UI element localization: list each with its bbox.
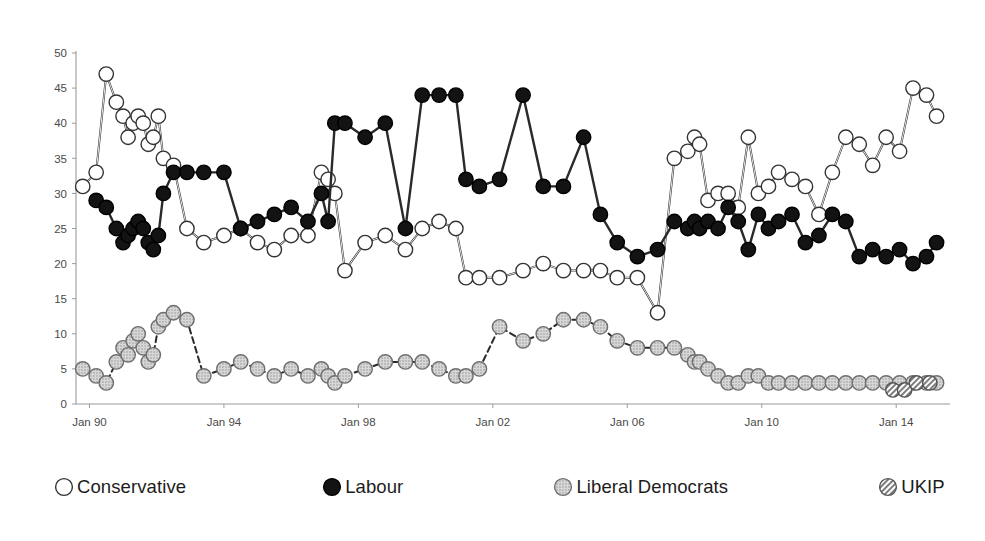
data-point <box>839 214 853 228</box>
data-point <box>301 369 315 383</box>
y-tick-label: 5 <box>61 363 67 375</box>
data-point <box>398 221 412 235</box>
data-point <box>692 137 706 151</box>
data-point <box>321 214 335 228</box>
data-point <box>284 362 298 376</box>
chart-legend: ConservativeLabourLiberal DemocratsUKIP <box>54 466 954 508</box>
data-point <box>865 158 879 172</box>
data-point <box>415 355 429 369</box>
data-point <box>146 130 160 144</box>
data-point <box>121 348 135 362</box>
data-point <box>879 249 893 263</box>
data-point <box>398 355 412 369</box>
data-point <box>825 376 839 390</box>
data-point <box>459 270 473 284</box>
y-tick-label: 20 <box>54 258 67 270</box>
data-point <box>146 348 160 362</box>
data-point <box>197 165 211 179</box>
data-point <box>156 186 170 200</box>
data-point <box>741 242 755 256</box>
data-point <box>449 221 463 235</box>
data-point <box>852 376 866 390</box>
data-point <box>667 214 681 228</box>
data-point <box>197 369 211 383</box>
data-point <box>99 200 113 214</box>
y-tick-label: 40 <box>54 117 67 129</box>
data-point <box>358 235 372 249</box>
data-point <box>472 270 486 284</box>
x-tick-label: Jan 10 <box>744 416 779 428</box>
series-liberal-democrats <box>76 306 944 391</box>
data-point <box>556 313 570 327</box>
hatched-circle-icon <box>878 477 898 497</box>
y-tick-label: 25 <box>54 223 67 235</box>
data-point <box>812 207 826 221</box>
data-point <box>771 165 785 179</box>
data-point <box>151 109 165 123</box>
data-point <box>197 235 211 249</box>
data-point <box>301 214 315 228</box>
data-point <box>217 362 231 376</box>
data-point <box>812 228 826 242</box>
data-point <box>338 263 352 277</box>
y-tick-label: 10 <box>54 328 67 340</box>
data-point <box>472 179 486 193</box>
legend-item-liberal-democrats[interactable]: Liberal Democrats <box>553 476 728 498</box>
data-point <box>284 200 298 214</box>
data-point <box>593 320 607 334</box>
data-point <box>398 242 412 256</box>
data-point <box>99 67 113 81</box>
y-tick-label: 35 <box>54 153 67 165</box>
legend-item-ukip[interactable]: UKIP <box>878 476 945 498</box>
legend-item-conservative[interactable]: Conservative <box>54 476 186 498</box>
data-point <box>852 249 866 263</box>
data-point <box>839 130 853 144</box>
data-point <box>812 376 826 390</box>
data-point <box>321 172 335 186</box>
data-point <box>378 228 392 242</box>
data-point <box>630 270 644 284</box>
data-point <box>536 256 550 270</box>
data-point <box>267 369 281 383</box>
data-point <box>785 376 799 390</box>
x-tick-label: Jan 02 <box>476 416 511 428</box>
data-point <box>929 109 943 123</box>
data-point <box>892 144 906 158</box>
data-point <box>610 334 624 348</box>
legend-label: Conservative <box>77 476 186 498</box>
data-point <box>250 235 264 249</box>
y-tick-label: 50 <box>54 47 67 59</box>
data-point <box>180 221 194 235</box>
data-point <box>166 165 180 179</box>
legend-item-labour[interactable]: Labour <box>322 476 403 498</box>
data-point <box>919 249 933 263</box>
data-point <box>650 306 664 320</box>
x-tick-label: Jan 90 <box>72 416 107 428</box>
data-point <box>121 130 135 144</box>
legend-label: Labour <box>345 476 403 498</box>
data-point <box>492 172 506 186</box>
filled-circle-icon <box>322 477 342 497</box>
data-point <box>929 235 943 249</box>
data-point <box>314 186 328 200</box>
data-point <box>731 214 745 228</box>
series-conservative <box>76 67 944 320</box>
data-point <box>234 221 248 235</box>
data-point <box>798 235 812 249</box>
data-point <box>667 341 681 355</box>
data-point <box>761 179 775 193</box>
data-point <box>301 228 315 242</box>
data-point <box>906 256 920 270</box>
data-point <box>217 228 231 242</box>
data-point <box>151 228 165 242</box>
data-point <box>825 165 839 179</box>
data-point <box>630 341 644 355</box>
data-point <box>667 151 681 165</box>
dotted-circle-icon <box>553 477 573 497</box>
y-tick-label: 0 <box>61 398 67 410</box>
legend-label: UKIP <box>901 476 945 498</box>
data-point <box>825 207 839 221</box>
chart-plot-area: 05101520253035404550Jan 90Jan 94Jan 98Ja… <box>0 0 985 541</box>
data-point <box>721 200 735 214</box>
data-point <box>923 376 937 390</box>
